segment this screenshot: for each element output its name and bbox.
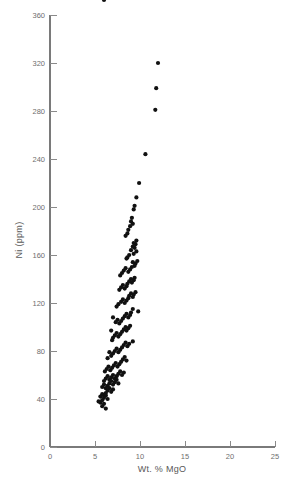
data-point xyxy=(128,224,132,228)
data-point xyxy=(109,354,113,358)
data-point xyxy=(117,321,121,325)
data-point xyxy=(98,395,102,399)
data-point xyxy=(109,329,113,333)
data-point xyxy=(153,108,157,112)
y-tick-label: 280 xyxy=(32,107,45,116)
y-tick-label: 360 xyxy=(32,11,45,20)
data-point xyxy=(124,359,128,363)
x-tick-label: 5 xyxy=(93,452,97,461)
data-point xyxy=(126,270,130,274)
data-point xyxy=(126,228,130,232)
data-point xyxy=(111,315,115,319)
axes-group xyxy=(50,15,275,447)
data-point xyxy=(102,0,106,2)
data-point xyxy=(111,383,115,387)
data-points-group xyxy=(97,0,161,411)
y-tick-label: 80 xyxy=(37,347,45,356)
data-point xyxy=(130,216,134,220)
chart-canvas: 04080120160200240280320360 0510152025 Wt… xyxy=(0,0,295,489)
x-tick-label: 20 xyxy=(226,452,234,461)
data-point xyxy=(114,320,118,324)
data-point xyxy=(106,397,110,401)
data-point xyxy=(103,369,107,373)
x-tick-label: 25 xyxy=(271,452,279,461)
data-point xyxy=(131,245,135,249)
data-point xyxy=(131,260,135,264)
data-point xyxy=(106,356,110,360)
data-point xyxy=(137,181,141,185)
data-point xyxy=(108,368,112,372)
data-point xyxy=(120,373,124,377)
x-tick-label: 0 xyxy=(48,452,52,461)
x-axis-ticks: 0510152025 xyxy=(48,441,279,461)
data-point xyxy=(117,288,121,292)
data-point xyxy=(97,399,101,403)
data-point xyxy=(126,315,130,319)
x-tick-label: 10 xyxy=(136,452,144,461)
data-point xyxy=(125,344,129,348)
data-point xyxy=(109,390,113,394)
y-tick-label: 120 xyxy=(32,299,45,308)
data-point xyxy=(131,307,135,311)
y-axis-title: Ni (ppm) xyxy=(14,222,24,259)
y-tick-label: 40 xyxy=(37,395,45,404)
data-point xyxy=(156,61,160,65)
data-point xyxy=(115,365,119,369)
x-tick-label: 15 xyxy=(181,452,189,461)
data-point xyxy=(132,207,136,211)
data-point xyxy=(116,381,120,385)
data-point xyxy=(123,287,127,291)
data-point xyxy=(124,234,128,238)
data-point xyxy=(116,350,120,354)
x-axis-title: Wt. % MgO xyxy=(138,464,187,474)
data-point xyxy=(134,195,138,199)
data-point xyxy=(129,248,133,252)
data-point xyxy=(136,309,140,313)
y-tick-label: 320 xyxy=(32,59,45,68)
data-point xyxy=(132,241,136,245)
data-point xyxy=(118,273,122,277)
data-point xyxy=(110,338,114,342)
y-tick-label: 160 xyxy=(32,251,45,260)
data-point xyxy=(132,252,136,256)
data-point xyxy=(131,339,135,343)
y-tick-label: 200 xyxy=(32,203,45,212)
y-axis-ticks: 04080120160200240280320360 xyxy=(32,11,57,452)
data-point xyxy=(116,335,120,339)
y-tick-label: 240 xyxy=(32,155,45,164)
data-point xyxy=(124,257,128,261)
data-point xyxy=(107,350,111,354)
data-point xyxy=(102,379,106,383)
data-point xyxy=(100,404,104,408)
data-point xyxy=(131,295,135,299)
data-point xyxy=(143,152,147,156)
data-point xyxy=(104,407,108,411)
data-point xyxy=(115,305,119,309)
data-point xyxy=(123,301,127,305)
data-point xyxy=(133,204,137,208)
scatter-plot-figure: 04080120160200240280320360 0510152025 Wt… xyxy=(0,0,295,489)
data-point xyxy=(154,86,158,90)
y-tick-label: 0 xyxy=(41,443,45,452)
data-point xyxy=(100,385,104,389)
